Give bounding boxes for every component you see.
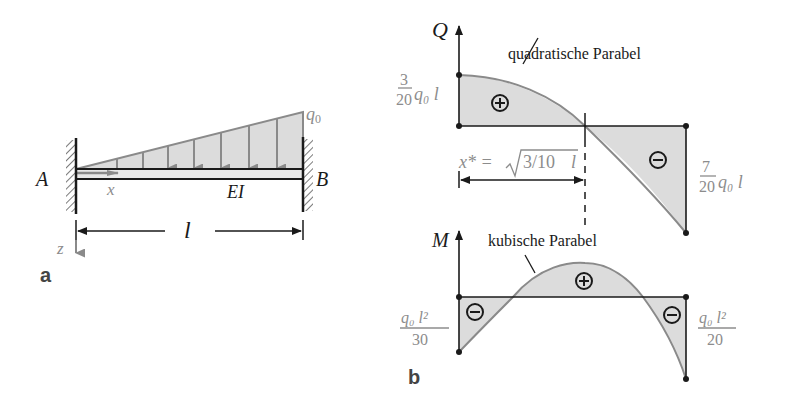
point [456,72,462,78]
q-axis-label: Q [432,17,448,42]
figure-canvas: A B q0 x EI l z a Q quadratische Parabel… [0,0,790,404]
right-clamped-support [303,137,313,212]
moment-neg-right-area [643,297,686,379]
svg-text:l: l [571,152,576,172]
point [683,230,689,236]
length-label: l [184,217,191,243]
leader-line [525,255,535,273]
svg-text:3: 3 [400,71,408,88]
moment-right-value: q₀ l² [699,309,727,327]
support-a-label: A [34,168,49,190]
quadratic-parabola-note: quadratische Parabel [508,45,641,63]
cubic-parabola-note: kubische Parabel [488,232,597,249]
svg-text:20: 20 [707,331,723,348]
load-q0-label: q0 [306,104,321,126]
svg-text:7: 7 [702,158,710,175]
panel-b-label: b [408,366,420,388]
moment-left-value: q₀ l² [401,309,429,327]
panel-a-label: a [40,264,52,286]
point [683,123,689,129]
x-star-label: x* = [458,152,493,172]
shear-positive-area [459,75,585,126]
left-clamped-support [66,138,76,214]
svg-text:3/10: 3/10 [523,152,555,172]
svg-text:20: 20 [699,178,715,195]
svg-text:30: 30 [412,331,428,348]
point [456,123,462,129]
shear-right-value: q₀ l [718,172,743,192]
support-b-label: B [316,168,328,190]
ei-label: EI [226,182,245,202]
shear-left-value: q₀ l [414,84,439,104]
svg-text:20: 20 [396,91,412,108]
distributed-load-area [76,112,303,169]
z-axis-label: z [56,239,64,258]
x-axis-label: x [106,180,115,199]
m-axis-label: M [431,229,450,251]
